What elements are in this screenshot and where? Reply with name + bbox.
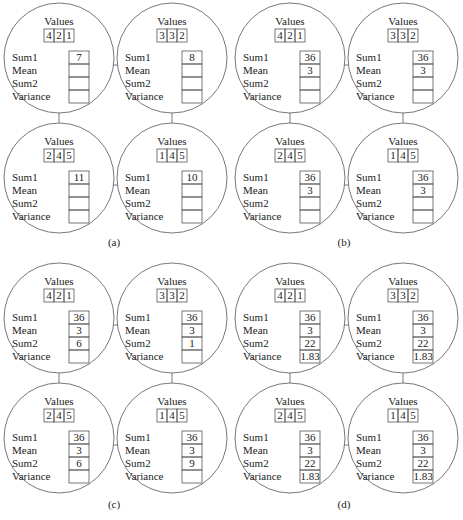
row-label-mean: Mean xyxy=(356,324,382,336)
values-heading: Values xyxy=(388,275,417,287)
stat-value-variance: 1.83 xyxy=(300,470,320,482)
values-heading: Values xyxy=(388,135,417,147)
stat-value-sum2: 22 xyxy=(418,457,429,469)
stat-value-sum1: 7 xyxy=(76,51,82,63)
distributed-variance-figure: Values421Sum17MeanSum2VarianceValues332S… xyxy=(0,0,463,520)
row-label-mean: Mean xyxy=(356,184,382,196)
row-label-variance: Variance xyxy=(243,210,282,222)
row-label-sum2: Sum2 xyxy=(12,197,38,209)
row-label-sum2: Sum2 xyxy=(12,457,38,469)
row-label-sum1: Sum1 xyxy=(356,431,382,443)
stat-value-mean: 3 xyxy=(420,324,426,336)
row-label-sum2: Sum2 xyxy=(356,337,382,349)
row-label-sum2: Sum2 xyxy=(243,197,269,209)
value-text: 5 xyxy=(410,409,416,421)
row-label-sum1: Sum1 xyxy=(125,51,151,63)
row-label-variance: Variance xyxy=(356,210,395,222)
row-label-variance: Variance xyxy=(125,210,164,222)
value-text: 3 xyxy=(390,289,396,301)
value-text: 3 xyxy=(159,29,165,41)
node: Values145Sum136Mean3Sum29Variance xyxy=(117,383,227,493)
row-label-variance: Variance xyxy=(12,350,51,362)
panel-caption: (d) xyxy=(338,498,351,511)
row-label-sum1: Sum1 xyxy=(356,311,382,323)
row-label-sum2: Sum2 xyxy=(243,457,269,469)
panel-b: Values421Sum136Mean3Sum2VarianceValues33… xyxy=(235,3,458,249)
value-text: 4 xyxy=(46,289,52,301)
stat-value-sum2: 22 xyxy=(418,337,429,349)
stat-value-sum2: 6 xyxy=(76,457,82,469)
row-label-sum2: Sum2 xyxy=(125,337,151,349)
stat-value-mean: 3 xyxy=(189,324,195,336)
row-label-sum2: Sum2 xyxy=(12,337,38,349)
stat-value-sum2: 6 xyxy=(76,337,82,349)
row-label-sum1: Sum1 xyxy=(125,311,151,323)
stat-value-sum1: 10 xyxy=(187,171,199,183)
row-label-mean: Mean xyxy=(243,184,269,196)
node: Values145Sum136Mean3Sum2Variance xyxy=(348,123,458,233)
row-label-variance: Variance xyxy=(356,90,395,102)
row-label-sum2: Sum2 xyxy=(125,457,151,469)
value-text: 2 xyxy=(277,409,283,421)
row-label-mean: Mean xyxy=(12,444,38,456)
stat-value-mean: 3 xyxy=(307,184,313,196)
stat-value-sum1: 36 xyxy=(305,311,317,323)
node: Values421Sum136Mean3Sum222Variance1.83 xyxy=(235,263,345,373)
value-text: 4 xyxy=(277,29,283,41)
value-text: 5 xyxy=(179,409,185,421)
row-label-sum2: Sum2 xyxy=(125,77,151,89)
stat-value-sum1: 36 xyxy=(187,431,199,443)
value-text: 2 xyxy=(46,149,52,161)
row-label-sum1: Sum1 xyxy=(12,171,38,183)
stat-value-sum1: 8 xyxy=(189,51,195,63)
value-text: 1 xyxy=(66,29,72,41)
stat-value-variance: 1.83 xyxy=(300,350,320,362)
stat-value-mean: 3 xyxy=(307,444,313,456)
value-text: 4 xyxy=(56,149,62,161)
row-label-sum1: Sum1 xyxy=(12,51,38,63)
row-label-sum2: Sum2 xyxy=(243,77,269,89)
values-heading: Values xyxy=(44,275,73,287)
value-text: 4 xyxy=(169,149,175,161)
value-text: 2 xyxy=(287,289,293,301)
value-text: 2 xyxy=(287,29,293,41)
row-label-sum1: Sum1 xyxy=(243,311,269,323)
value-text: 1 xyxy=(390,149,396,161)
value-text: 5 xyxy=(297,149,303,161)
value-text: 3 xyxy=(159,289,165,301)
value-text: 3 xyxy=(400,29,406,41)
value-text: 5 xyxy=(66,149,72,161)
stat-value-variance: 1.83 xyxy=(413,350,433,362)
stat-value-variance: 1.83 xyxy=(413,470,433,482)
node: Values145Sum110MeanSum2Variance xyxy=(117,123,227,233)
row-label-variance: Variance xyxy=(12,470,51,482)
values-heading: Values xyxy=(157,15,186,27)
row-label-sum2: Sum2 xyxy=(12,77,38,89)
row-label-mean: Mean xyxy=(12,64,38,76)
row-label-variance: Variance xyxy=(356,350,395,362)
values-heading: Values xyxy=(275,275,304,287)
node: Values421Sum136Mean3Sum26Variance xyxy=(4,263,114,373)
stat-value-sum1: 36 xyxy=(305,431,317,443)
row-label-mean: Mean xyxy=(12,324,38,336)
stat-value-sum1: 11 xyxy=(74,171,85,183)
row-label-sum1: Sum1 xyxy=(243,171,269,183)
value-text: 3 xyxy=(390,29,396,41)
row-label-mean: Mean xyxy=(125,64,151,76)
value-text: 4 xyxy=(400,409,406,421)
stat-value-sum1: 36 xyxy=(187,311,199,323)
values-heading: Values xyxy=(157,135,186,147)
value-text: 5 xyxy=(410,149,416,161)
row-label-mean: Mean xyxy=(243,64,269,76)
node: Values332Sum18MeanSum2Variance xyxy=(117,3,227,113)
row-label-sum1: Sum1 xyxy=(243,431,269,443)
row-label-mean: Mean xyxy=(125,184,151,196)
values-heading: Values xyxy=(157,275,186,287)
value-text: 5 xyxy=(66,409,72,421)
row-label-sum1: Sum1 xyxy=(356,51,382,63)
row-label-variance: Variance xyxy=(125,470,164,482)
value-text: 5 xyxy=(297,409,303,421)
row-label-mean: Mean xyxy=(12,184,38,196)
stat-value-sum1: 36 xyxy=(418,51,430,63)
panel-caption: (a) xyxy=(108,236,121,249)
